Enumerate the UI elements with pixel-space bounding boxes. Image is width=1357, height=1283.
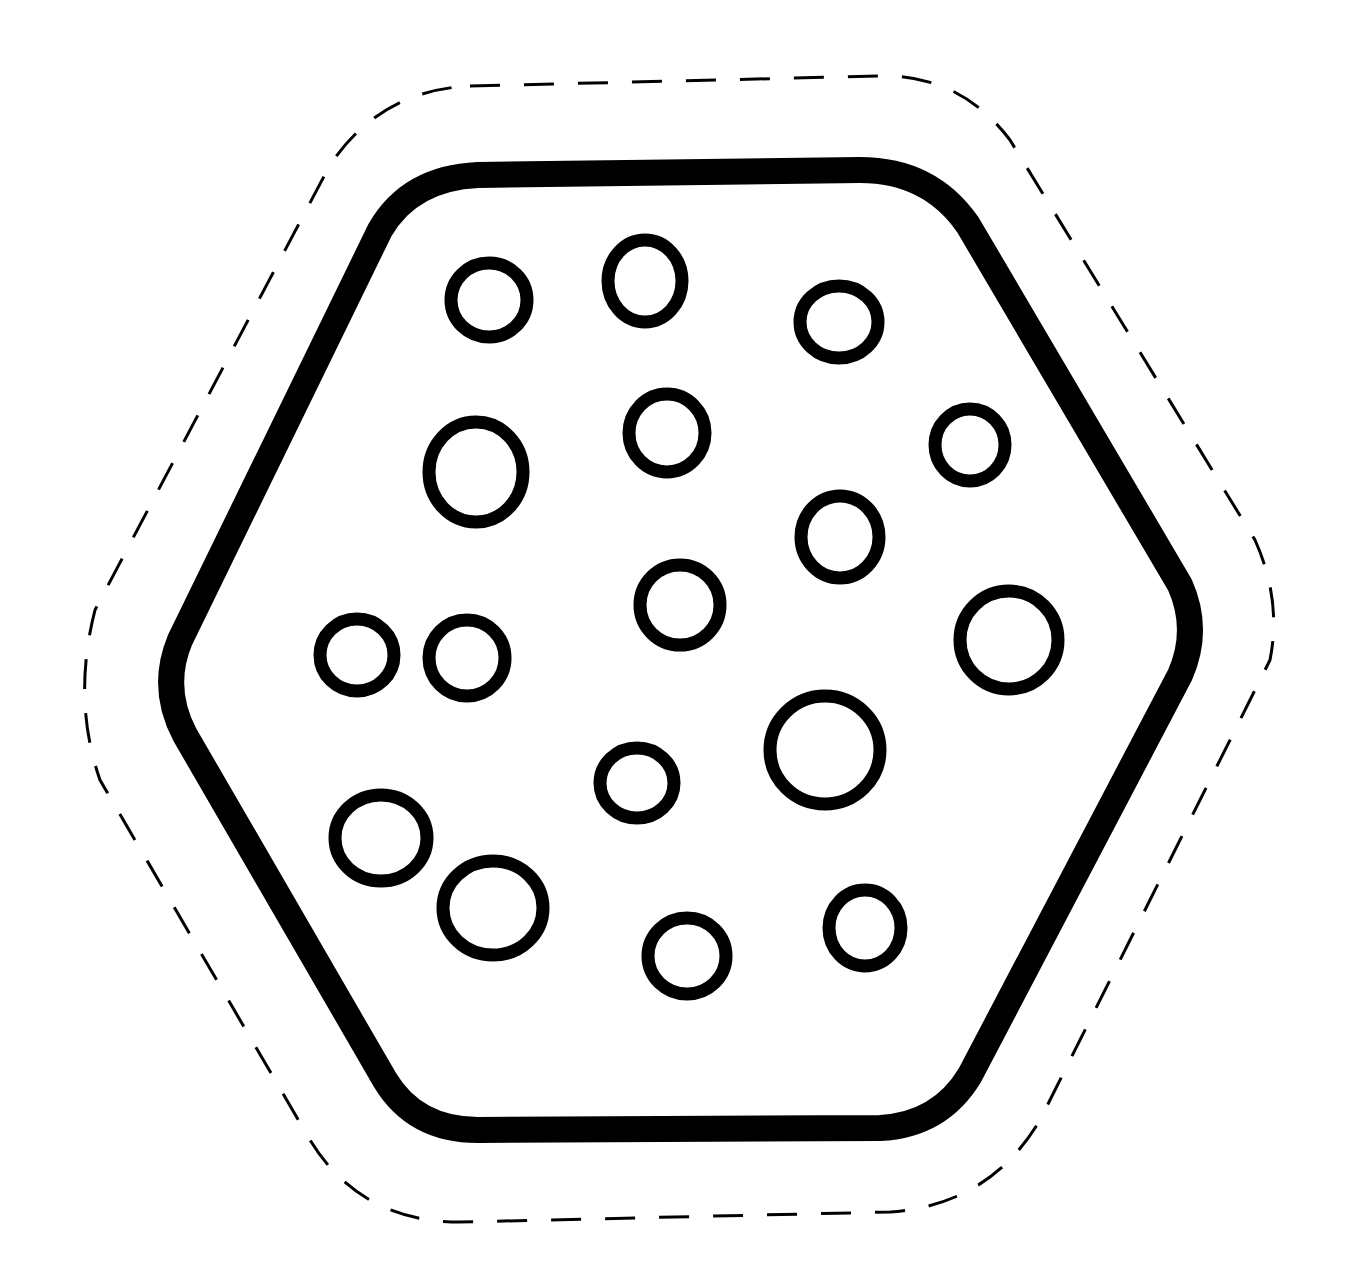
cracker-hole — [443, 861, 543, 955]
cracker-hole — [800, 286, 878, 358]
cracker-hole — [801, 496, 879, 578]
cracker-hole — [600, 748, 674, 818]
cracker-hole — [629, 394, 705, 472]
cracker-hole — [829, 890, 901, 966]
cracker-hole — [320, 619, 394, 691]
cracker-cutout-illustration — [0, 0, 1357, 1283]
cracker-hole — [429, 422, 523, 522]
cracker-hole — [608, 240, 682, 322]
cracker-hole — [640, 565, 720, 645]
cracker-hole — [935, 409, 1005, 481]
cracker-hole — [770, 696, 880, 804]
cracker-holes — [320, 240, 1058, 994]
cracker-hole — [451, 263, 527, 337]
illustration-svg — [0, 0, 1357, 1283]
cracker-hole — [960, 591, 1058, 689]
cracker-hole — [429, 620, 505, 696]
cracker-hole — [335, 795, 427, 881]
cracker-hole — [648, 918, 726, 994]
